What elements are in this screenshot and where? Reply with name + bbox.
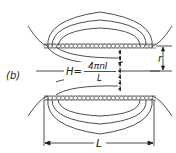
length-label: L xyxy=(96,137,102,150)
field-direction-arrows xyxy=(118,50,121,92)
formula-denominator: L xyxy=(97,73,102,83)
formula-lhs: H= xyxy=(66,66,82,77)
solenoid-diagram: r L (b) H= 4πnI L xyxy=(0,0,176,153)
coil-lower-turns xyxy=(44,96,153,100)
field-lines-lower xyxy=(28,96,172,134)
formula-numerator: 4πnI xyxy=(88,61,108,71)
radius-label: r xyxy=(158,53,163,64)
panel-label: (b) xyxy=(6,70,20,81)
coil-upper-turns xyxy=(44,44,153,48)
field-lines-upper xyxy=(28,12,172,64)
